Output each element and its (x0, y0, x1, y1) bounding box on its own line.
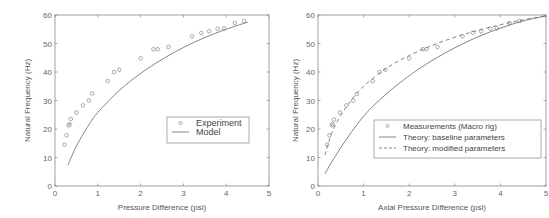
x-axis-label: Pressure Difference (psi) (118, 203, 207, 212)
x-tick-label: 5 (544, 189, 549, 198)
data-point-marker (63, 143, 67, 147)
data-point-marker (332, 118, 336, 122)
data-point-marker (167, 45, 171, 49)
x-tick-label: 0 (316, 189, 321, 198)
legend-label: Theory: baseline parameters (403, 133, 505, 142)
data-point-marker (207, 29, 211, 33)
data-point-marker (216, 27, 220, 31)
data-point-marker (75, 111, 79, 115)
legend-label: Theory: modified parameters (403, 144, 505, 153)
data-point-marker (152, 47, 156, 51)
x-tick-label: 1 (361, 189, 366, 198)
y-axis-label: Natural Frequency (Hz) (23, 59, 32, 142)
y-tick-label: 20 (306, 125, 315, 134)
y-tick-label: 60 (306, 11, 315, 20)
y-tick-label: 50 (43, 40, 52, 49)
data-point-marker (371, 79, 375, 83)
data-point-marker (90, 92, 94, 96)
y-tick-label: 0 (311, 182, 316, 191)
data-point-marker (242, 19, 246, 23)
figure: 0123450102030405060Pressure Difference (… (0, 0, 549, 218)
y-tick-label: 60 (43, 11, 52, 20)
y-tick-label: 40 (43, 68, 52, 77)
y-tick-label: 10 (306, 154, 315, 163)
plot-frame (318, 15, 546, 186)
x-tick-label: 2 (138, 189, 143, 198)
x-tick-label: 4 (224, 189, 229, 198)
data-point-marker (117, 68, 121, 72)
data-point-marker (81, 104, 85, 108)
data-point-marker (112, 70, 116, 74)
data-point-marker (190, 35, 194, 39)
data-point-marker (68, 122, 72, 126)
y-axis-label: Natural Frequency (Hz) (291, 59, 300, 142)
data-point-marker (87, 99, 91, 103)
x-tick-label: 4 (498, 189, 503, 198)
data-point-marker (344, 104, 348, 108)
y-tick-label: 30 (43, 97, 52, 106)
y-tick-label: 0 (48, 182, 53, 191)
x-tick-label: 3 (181, 189, 186, 198)
data-point-marker (69, 117, 73, 121)
left-chart: 0123450102030405060Pressure Difference (… (23, 11, 272, 212)
data-point-marker (200, 31, 204, 35)
data-point-marker (156, 47, 160, 51)
x-tick-label: 0 (53, 189, 58, 198)
data-point-marker (338, 111, 342, 115)
data-point-marker (407, 57, 411, 61)
data-point-marker (139, 57, 143, 61)
y-tick-label: 20 (43, 125, 52, 134)
series-line (68, 22, 248, 165)
data-point-marker (328, 133, 332, 137)
x-axis-label: Axial Pressure Difference (psi) (378, 203, 486, 212)
y-tick-label: 50 (306, 40, 315, 49)
x-tick-label: 3 (453, 189, 458, 198)
x-tick-label: 2 (407, 189, 412, 198)
x-tick-label: 1 (96, 189, 101, 198)
y-tick-label: 30 (306, 97, 315, 106)
right-chart: 0123450102030405060Axial Pressure Differ… (291, 11, 549, 212)
y-tick-label: 40 (306, 68, 315, 77)
legend-label: Measurements (Macro rig) (403, 122, 497, 131)
y-tick-label: 10 (43, 154, 52, 163)
data-point-marker (351, 99, 355, 103)
legend-label: Model (196, 127, 221, 137)
data-point-marker (106, 79, 110, 83)
data-point-marker (65, 133, 69, 137)
x-tick-label: 5 (267, 189, 272, 198)
data-point-marker (233, 21, 237, 25)
data-point-marker (436, 45, 440, 49)
